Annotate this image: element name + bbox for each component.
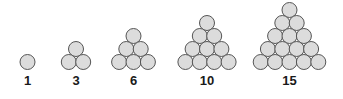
dot (126, 55, 141, 70)
group-label-6: 6 (130, 73, 137, 88)
dot (192, 55, 207, 70)
dot (61, 55, 76, 70)
dot (311, 55, 326, 70)
dot (221, 55, 236, 70)
dot (207, 55, 222, 70)
dot (76, 55, 91, 70)
dot (253, 55, 268, 70)
group-label-1: 1 (24, 73, 31, 88)
dot (296, 55, 311, 70)
group-label-3: 3 (72, 73, 79, 88)
triangular-numbers-canvas: 1361015 (0, 0, 343, 99)
dot (268, 55, 283, 70)
dot (20, 55, 35, 70)
dot (178, 55, 193, 70)
dot (140, 55, 155, 70)
group-label-10: 10 (200, 73, 214, 88)
group-label-15: 15 (282, 73, 296, 88)
group-1 (20, 55, 35, 70)
dot (112, 55, 127, 70)
triangular-numbers-figure: 1361015 (0, 0, 343, 99)
dot (282, 55, 297, 70)
